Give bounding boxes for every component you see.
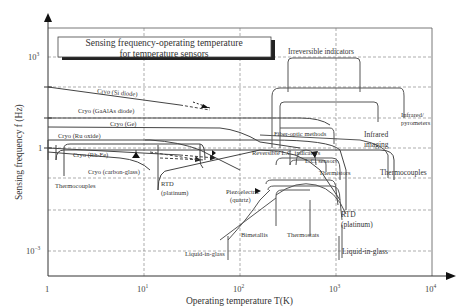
label-liquid-left: Liquid-in-glass <box>185 250 225 257</box>
label-rh-fe: Cryo (Rh-Fe) <box>73 151 108 159</box>
label-rtd-left-2: (platinum) <box>161 189 188 197</box>
ytick-1000: 103 <box>28 51 40 62</box>
label-thermocouples-right: Thermocouples <box>380 168 427 177</box>
label-ge: Cryo (Ge) <box>110 120 137 128</box>
label-infrared-imaging-1: Infrared <box>364 130 388 139</box>
y-axis-arrow-icon <box>44 13 52 22</box>
label-irreversible: Irreversible indicators <box>288 47 354 56</box>
title-line-2: for temperature sensors <box>119 49 208 59</box>
label-thermostats: Thermostats <box>287 231 320 238</box>
title-line-1: Sensing frequency-operating temperature <box>85 38 242 48</box>
label-fiber-optic: Fiber-optic methods <box>274 130 327 137</box>
label-liquid-right: Liquid-in-glass <box>342 247 388 256</box>
label-thermocouples-left: Thermocouples <box>55 182 96 189</box>
xtick-100: 102 <box>233 283 245 294</box>
label-thermistors: Thermistors <box>319 169 351 176</box>
label-reversible-lc: Reversible L.C. indicators <box>252 149 321 156</box>
y-axis-title: Sensing frequency f (Hz) <box>14 104 25 200</box>
xtick-10: 101 <box>137 283 149 294</box>
label-infrared-pyro-2: pyrometers <box>401 119 431 126</box>
title-box: Sensing frequency-operating temperature … <box>58 37 275 60</box>
label-piezo-1: Piezoelectric <box>226 188 260 195</box>
xtick-10000: 104 <box>425 283 437 294</box>
sensor-chart: 103 1 10−3 1 101 102 103 104 Operating t… <box>0 0 463 307</box>
label-infrared-imaging-2: imaging <box>364 140 389 149</box>
ytick-0001: 10−3 <box>26 245 41 256</box>
label-carbon-glass: Cryo (carbon-glass) <box>88 168 140 176</box>
x-axis-arrow-icon <box>446 272 456 280</box>
label-infrared-pyro-1: Infrared/ <box>401 111 424 118</box>
label-ru-oxide: Cryo (Ru oxide) <box>58 132 101 140</box>
label-bimetallis: Bimetallis <box>241 231 268 238</box>
label-rtd-right-1: RTD <box>341 210 356 219</box>
xtick-1000: 103 <box>329 283 341 294</box>
label-piezo-2: (quartz) <box>230 196 251 204</box>
x-axis-title: Operating temperature T(K) <box>186 296 293 307</box>
label-rtd-left-1: RTD <box>161 180 174 187</box>
label-lc-sensors: L.C. sensors <box>305 157 338 164</box>
xtick-1: 1 <box>45 284 49 294</box>
label-gaalas: Cryo (GaAlAs diode) <box>78 107 134 115</box>
ytick-1: 1 <box>38 143 42 153</box>
mid-devices <box>220 150 346 258</box>
label-rtd-right-2: (platinum) <box>341 220 373 229</box>
